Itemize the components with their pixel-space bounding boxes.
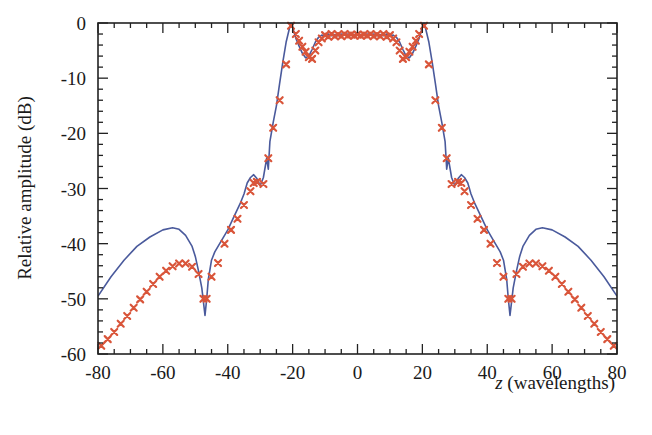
x-tick-label: -40 bbox=[215, 362, 240, 383]
x-marker bbox=[131, 305, 137, 311]
chart-figure: -80-60-40-20020406080 0-10-20-30-40-50-6… bbox=[0, 0, 652, 435]
x-marker bbox=[183, 261, 189, 267]
x-marker bbox=[111, 329, 117, 335]
x-marker bbox=[494, 260, 500, 266]
x-marker bbox=[283, 61, 289, 67]
x-tick-label: -60 bbox=[150, 362, 175, 383]
x-tick-label: -20 bbox=[280, 362, 305, 383]
x-marker bbox=[176, 261, 182, 267]
x-marker bbox=[526, 261, 532, 267]
x-axis-title-unit: (wavelengths) bbox=[503, 372, 615, 394]
x-marker bbox=[559, 281, 565, 287]
x-marker bbox=[565, 289, 571, 295]
y-tick-label: -30 bbox=[61, 179, 86, 200]
x-marker bbox=[611, 343, 617, 349]
x-marker bbox=[546, 268, 552, 274]
x-marker bbox=[591, 321, 597, 327]
x-marker bbox=[118, 321, 124, 327]
x-marker bbox=[572, 296, 578, 302]
x-marker bbox=[520, 264, 526, 270]
x-marker bbox=[215, 260, 221, 266]
x-marker bbox=[98, 343, 104, 349]
x-marker bbox=[228, 227, 234, 233]
marker-series bbox=[98, 23, 617, 349]
x-marker bbox=[150, 281, 156, 287]
x-marker bbox=[552, 274, 558, 280]
axes-frame bbox=[98, 23, 617, 354]
y-tick-label: -10 bbox=[61, 68, 86, 89]
x-marker bbox=[189, 264, 195, 270]
x-marker bbox=[585, 313, 591, 319]
x-marker bbox=[247, 188, 253, 194]
x-marker bbox=[533, 261, 539, 267]
x-marker bbox=[137, 296, 143, 302]
x-marker bbox=[462, 188, 468, 194]
x-marker bbox=[539, 263, 545, 269]
x-marker bbox=[578, 305, 584, 311]
x-marker bbox=[170, 263, 176, 269]
x-tick-label: 20 bbox=[413, 362, 432, 383]
x-marker bbox=[604, 336, 610, 342]
x-marker bbox=[144, 289, 150, 295]
x-marker bbox=[222, 241, 228, 247]
x-marker bbox=[157, 274, 163, 280]
y-tick-label: -60 bbox=[61, 344, 86, 365]
x-marker bbox=[426, 61, 432, 67]
x-axis-title: z (wavelengths) bbox=[494, 372, 615, 394]
x-marker bbox=[312, 48, 318, 54]
x-marker bbox=[598, 329, 604, 335]
plot-area bbox=[98, 23, 617, 349]
x-marker bbox=[397, 48, 403, 54]
y-tick-label: -20 bbox=[61, 123, 86, 144]
x-marker bbox=[241, 202, 247, 208]
solid-line-series bbox=[98, 23, 617, 315]
x-marker bbox=[487, 241, 493, 247]
x-marker bbox=[124, 313, 130, 319]
x-tick-label: -80 bbox=[85, 362, 110, 383]
y-tick-label: -50 bbox=[61, 289, 86, 310]
x-marker bbox=[234, 216, 240, 222]
x-marker bbox=[481, 227, 487, 233]
y-tick-label: -40 bbox=[61, 234, 86, 255]
x-tick-label: 40 bbox=[478, 362, 497, 383]
y-axis-tick-labels: 0-10-20-30-40-50-60 bbox=[61, 13, 86, 365]
x-marker bbox=[163, 268, 169, 274]
x-marker bbox=[105, 336, 111, 342]
x-tick-label: 0 bbox=[353, 362, 363, 383]
y-axis-title: Relative amplitude (dB) bbox=[14, 96, 36, 280]
x-marker bbox=[475, 216, 481, 222]
x-marker bbox=[468, 202, 474, 208]
y-tick-label: 0 bbox=[77, 13, 87, 34]
